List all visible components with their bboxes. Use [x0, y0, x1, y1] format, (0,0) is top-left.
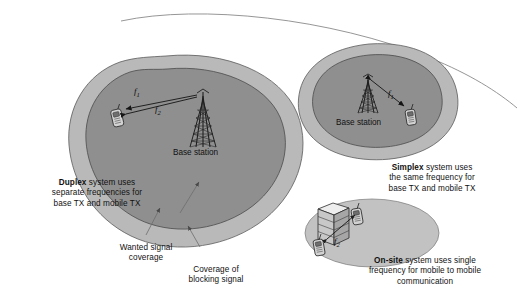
- duplex-f1-label: f1: [134, 86, 140, 98]
- onsite-f2-label: f2: [334, 236, 340, 248]
- horizon-arc-icon: [121, 14, 517, 108]
- blocking-signal-line2: blocking signal: [189, 275, 244, 284]
- simplex-blocking-coverage-area: [298, 44, 458, 160]
- duplex-caption: Duplex system uses separate frequencies …: [14, 178, 180, 209]
- onsite-frequency-arrow: [327, 215, 355, 239]
- simplex-caption-line3: base TX and mobile TX: [389, 184, 476, 193]
- duplex-caption-line3: base TX and mobile TX: [54, 199, 141, 208]
- simplex-caption-keyword: Simplex: [392, 163, 424, 172]
- blocking-signal-annotation: Coverage of blocking signal: [164, 265, 268, 286]
- diagram-canvas: f1 f2 Base station Duplex system uses se…: [0, 0, 517, 307]
- simplex-caption: Simplex system uses the same frequency f…: [352, 163, 512, 194]
- simplex-wanted-coverage-area: [313, 55, 443, 148]
- duplex-base-station-label: Base station: [173, 148, 218, 157]
- radio-mast-icon: [358, 74, 378, 113]
- duplex-caption-line2: separate frequencies for: [52, 188, 142, 197]
- duplex-frequency-arrows: [126, 95, 197, 114]
- wanted-signal-annotation: Wanted signal coverage: [96, 243, 196, 264]
- wanted-signal-line1: Wanted signal: [120, 243, 173, 252]
- mobile-handset-icon: [405, 104, 417, 126]
- simplex-f1-label: f1: [388, 88, 394, 100]
- blocking-signal-line1: Coverage of: [193, 265, 239, 274]
- radio-mast-icon: [190, 89, 216, 147]
- duplex-caption-keyword: Duplex: [59, 178, 87, 187]
- onsite-caption-line2: frequency for mobile to mobile: [369, 266, 481, 275]
- simplex-caption-line1: system uses: [424, 163, 473, 172]
- duplex-caption-line1: system uses: [87, 178, 136, 187]
- simplex-base-station-label: Base station: [336, 118, 381, 127]
- onsite-caption-keyword: On-site: [374, 256, 403, 265]
- duplex-f2-label: f2: [155, 104, 161, 116]
- onsite-caption: On-site system uses single frequency for…: [339, 256, 511, 287]
- mobile-handset-icon: [351, 203, 364, 225]
- onsite-caption-line3: communication: [397, 277, 453, 286]
- simplex-caption-line2: the same frequency for: [389, 173, 475, 182]
- mobile-handset-icon: [313, 234, 326, 256]
- wanted-signal-line2: coverage: [129, 253, 163, 262]
- mobile-handset-icon: [110, 104, 124, 127]
- onsite-caption-line1: system uses single: [403, 256, 476, 265]
